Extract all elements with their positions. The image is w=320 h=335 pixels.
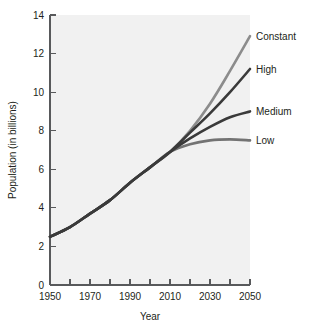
plot-area-background <box>50 15 250 285</box>
series-label-low: Low <box>256 135 275 146</box>
y-tick-label-10: 10 <box>33 87 45 98</box>
x-tick-label-1950: 1950 <box>39 291 62 302</box>
x-tick-label-2030: 2030 <box>199 291 222 302</box>
y-tick-label-4: 4 <box>38 202 44 213</box>
y-tick-label-2: 2 <box>38 241 44 252</box>
x-tick-label-2050: 2050 <box>239 291 262 302</box>
y-axis-tick-labels: 02468101214 <box>33 10 45 291</box>
x-axis-tick-labels: 195019701990201020302050 <box>39 291 262 302</box>
chart-canvas: 02468101214 195019701990201020302050 Con… <box>0 0 320 335</box>
y-tick-label-0: 0 <box>38 280 44 291</box>
y-tick-label-14: 14 <box>33 10 45 21</box>
series-label-constant: Constant <box>256 31 296 42</box>
y-tick-label-6: 6 <box>38 164 44 175</box>
series-label-high: High <box>256 64 277 75</box>
series-label-medium: Medium <box>256 106 292 117</box>
series-labels-group: ConstantHighMediumLow <box>256 31 296 146</box>
y-axis-title: Population (in billions) <box>7 101 18 199</box>
y-tick-label-12: 12 <box>33 48 45 59</box>
y-tick-label-8: 8 <box>38 125 44 136</box>
x-tick-label-2010: 2010 <box>159 291 182 302</box>
x-tick-label-1970: 1970 <box>79 291 102 302</box>
x-axis-title: Year <box>140 311 161 322</box>
x-tick-label-1990: 1990 <box>119 291 142 302</box>
population-projection-chart: 02468101214 195019701990201020302050 Con… <box>0 0 320 335</box>
